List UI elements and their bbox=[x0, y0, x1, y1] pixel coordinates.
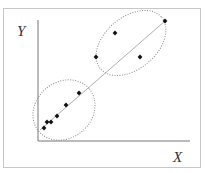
y-axis-label: Y bbox=[17, 24, 25, 39]
data-point-diamond bbox=[94, 55, 99, 60]
scatter-plot bbox=[0, 0, 206, 173]
x-axis-label: X bbox=[173, 150, 182, 165]
data-point-diamond bbox=[49, 120, 54, 125]
data-point-diamond bbox=[64, 103, 69, 108]
data-point-diamond bbox=[138, 55, 143, 60]
data-point-diamond bbox=[42, 126, 47, 131]
data-point-diamond bbox=[55, 114, 60, 119]
upper-cluster-ellipse bbox=[84, 0, 179, 89]
lower-cluster-ellipse bbox=[21, 67, 108, 152]
data-point-diamond bbox=[113, 31, 118, 36]
